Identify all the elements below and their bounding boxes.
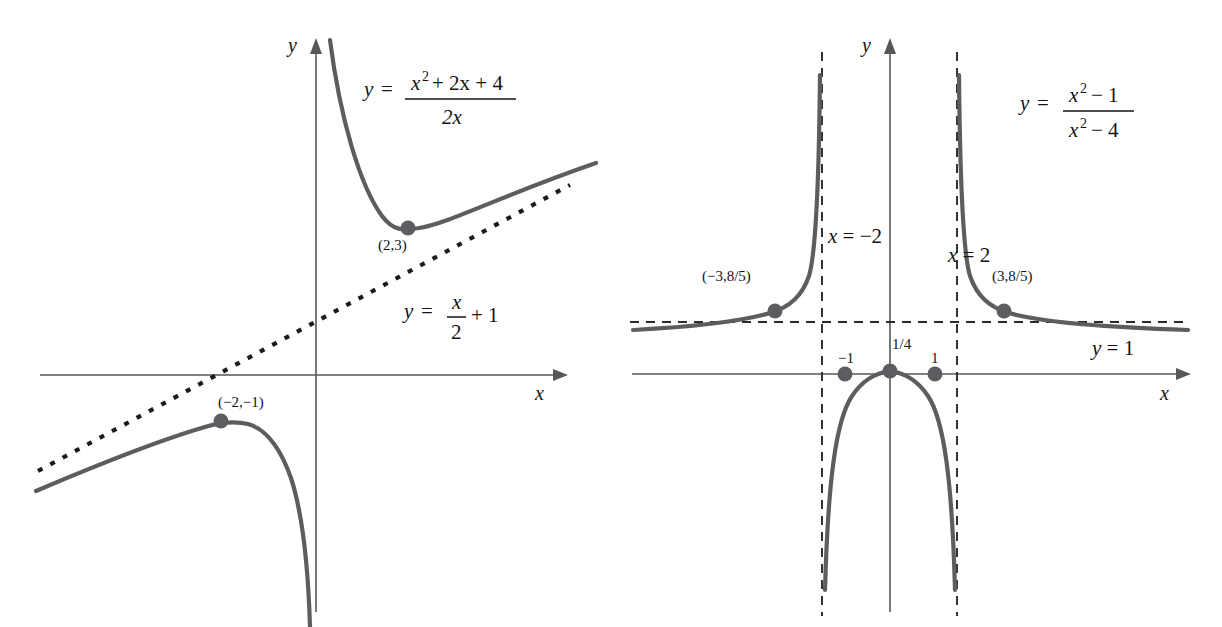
right-equation-numerator-rest: − 1: [1091, 83, 1119, 107]
left-asymptote-equals: =: [421, 299, 433, 323]
left-maximum-point-dot: [214, 414, 229, 429]
right-y-intercept-dot: [883, 364, 898, 379]
left-equation-numerator-rest: + 2x + 4: [432, 71, 503, 95]
right-equation-numerator-exponent: 2: [1080, 81, 1087, 96]
right-curve-left-branch: [633, 75, 820, 330]
right-y-axis: [884, 38, 896, 612]
right-point-pos3-label: (3,8/5): [992, 268, 1032, 285]
right-x-intercept-pos1-dot: [928, 367, 943, 382]
right-x-intercept-pos1-label: 1: [931, 350, 939, 366]
left-minimum-point-dot: [401, 221, 416, 236]
right-equation-denominator: x 2 − 4: [1068, 116, 1119, 142]
right-point-pos3-dot: [997, 304, 1012, 319]
right-graph-panel: x y (−3,8/5) (3,8/5) −1 1 1/4 x = −2 x =…: [600, 0, 1222, 627]
right-equation-denominator-rest: − 4: [1091, 118, 1119, 142]
left-equation-numerator: x 2 + 2x + 4: [410, 69, 503, 95]
right-horizontal-asymptote-label: y = 1: [1090, 336, 1134, 360]
left-minimum-point-label: (2,3): [378, 237, 407, 254]
right-x-intercept-neg1-dot: [838, 367, 853, 382]
left-equation-denominator: 2x: [442, 105, 463, 129]
right-equation-equals: =: [1037, 91, 1049, 115]
right-equation-denominator-exponent: 2: [1080, 116, 1087, 131]
right-vertical-asymptote-neg2-label: x = −2: [827, 224, 882, 248]
left-asymptote-lhs: y: [402, 299, 414, 323]
right-x-axis-label: x: [1159, 382, 1169, 404]
left-slant-asymptote: [38, 185, 570, 471]
right-curve-right-branch: [959, 75, 1188, 330]
right-x-intercept-neg1-label: −1: [838, 350, 854, 366]
right-vertical-asymptote-pos2-label: x = 2: [947, 243, 990, 267]
right-equation-numerator: x 2 − 1: [1068, 81, 1119, 107]
left-equation-label: y = x 2 + 2x + 4 2x: [362, 69, 516, 129]
right-y-intercept-label: 1/4: [892, 336, 912, 352]
left-maximum-point-label: (−2,−1): [218, 394, 264, 411]
left-x-axis-label: x: [534, 382, 544, 404]
right-equation-numerator-var: x: [1068, 83, 1079, 107]
right-point-neg3-label: (−3,8/5): [702, 268, 751, 285]
left-x-axis: [40, 369, 568, 381]
left-graph-panel: x y (2,3) (−2,−1) y = x 2 + 2x + 4 2x y: [0, 0, 600, 627]
left-equation-numerator-exponent: 2: [422, 69, 429, 84]
left-asymptote-tail: + 1: [471, 303, 499, 327]
right-equation-denominator-var: x: [1068, 118, 1079, 142]
right-equation-lhs: y: [1018, 91, 1030, 115]
left-y-axis-label: y: [286, 34, 297, 57]
left-equation-equals: =: [381, 77, 393, 101]
left-curve-right-branch: [330, 40, 596, 229]
right-point-neg3-dot: [768, 304, 783, 319]
left-equation-numerator-var: x: [410, 71, 421, 95]
left-equation-lhs: y: [362, 77, 374, 101]
right-y-axis-label: y: [860, 34, 871, 57]
left-curve-left-branch: [36, 422, 310, 627]
left-asymptote-equation-label: y = x 2 + 1: [402, 290, 499, 344]
left-asymptote-denominator: 2: [451, 320, 462, 344]
figure-root: x y (2,3) (−2,−1) y = x 2 + 2x + 4 2x y: [0, 0, 1222, 627]
left-asymptote-numerator: x: [451, 290, 462, 314]
right-equation-label: y = x 2 − 1 x 2 − 4: [1018, 81, 1134, 142]
